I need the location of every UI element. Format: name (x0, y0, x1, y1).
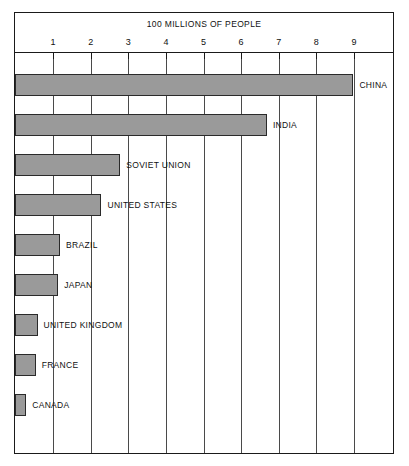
x-tick-label-7: 7 (276, 37, 281, 47)
bar-japan[interactable] (15, 274, 58, 296)
x-tickmark-1 (53, 52, 54, 59)
x-tick-label-1: 1 (51, 37, 56, 47)
bar-label-brazil: BRAZIL (60, 234, 98, 256)
bar-row[interactable]: SOVIET UNION (15, 154, 393, 176)
x-tick-label-3: 3 (126, 37, 131, 47)
bar-row[interactable]: CANADA (15, 394, 393, 416)
bar-row[interactable]: FRANCE (15, 354, 393, 376)
bar-canada[interactable] (15, 394, 26, 416)
bar-label-india: INDIA (267, 114, 297, 136)
x-axis-tick-labels: 123456789 (15, 35, 393, 52)
bar-row[interactable]: JAPAN (15, 274, 393, 296)
bar-china[interactable] (15, 74, 353, 96)
bar-soviet-union[interactable] (15, 154, 120, 176)
bar-row[interactable]: UNITED STATES (15, 194, 393, 216)
plot-area: CHINAINDIASOVIET UNIONUNITED STATESBRAZI… (15, 52, 393, 453)
x-tick-label-6: 6 (239, 37, 244, 47)
bar-label-france: FRANCE (36, 354, 79, 376)
bar-brazil[interactable] (15, 234, 60, 256)
bar-row[interactable]: INDIA (15, 114, 393, 136)
bar-row[interactable]: CHINA (15, 74, 393, 96)
bar-label-canada: CANADA (26, 394, 69, 416)
x-tickmark-5 (204, 52, 205, 59)
x-tickmark-3 (128, 52, 129, 59)
x-tickmark-9 (354, 52, 355, 59)
bar-united-kingdom[interactable] (15, 314, 38, 336)
bar-label-united-states: UNITED STATES (101, 194, 177, 216)
x-tickmark-4 (166, 52, 167, 59)
x-tickmark-2 (91, 52, 92, 59)
bar-row[interactable]: BRAZIL (15, 234, 393, 256)
bar-india[interactable] (15, 114, 267, 136)
x-tickmark-6 (241, 52, 242, 59)
bar-row[interactable]: UNITED KINGDOM (15, 314, 393, 336)
x-tick-label-8: 8 (314, 37, 319, 47)
x-tickmark-7 (279, 52, 280, 59)
bar-france[interactable] (15, 354, 36, 376)
bar-chart: 100 MILLIONS OF PEOPLE 123456789 CHINAIN… (0, 0, 409, 466)
x-tick-label-4: 4 (163, 37, 168, 47)
bar-label-china: CHINA (353, 74, 387, 96)
chart-title: 100 MILLIONS OF PEOPLE (147, 19, 261, 29)
chart-title-band: 100 MILLIONS OF PEOPLE (15, 13, 393, 35)
bar-label-japan: JAPAN (58, 274, 92, 296)
x-tickmark-8 (316, 52, 317, 59)
bar-label-united-kingdom: UNITED KINGDOM (38, 314, 123, 336)
x-tick-label-2: 2 (88, 37, 93, 47)
x-tick-label-9: 9 (351, 37, 356, 47)
chart-frame: 100 MILLIONS OF PEOPLE 123456789 CHINAIN… (14, 12, 394, 454)
x-tick-label-5: 5 (201, 37, 206, 47)
bar-united-states[interactable] (15, 194, 101, 216)
bar-label-soviet-union: SOVIET UNION (120, 154, 190, 176)
